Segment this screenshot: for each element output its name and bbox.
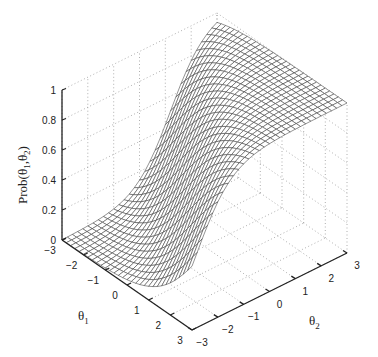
theta1-tick — [170, 313, 174, 315]
theta2-tick-label: −1 — [248, 311, 260, 322]
theta1-tick-label: 3 — [177, 335, 183, 346]
theta2-tick-label: 0 — [277, 299, 283, 310]
theta1-tick-label: −3 — [44, 245, 56, 256]
x-axis-label: θ1 — [78, 308, 89, 326]
theta1-tick — [149, 298, 153, 300]
theta1-tick-label: −1 — [88, 275, 100, 286]
theta1-tick-label: 1 — [134, 305, 140, 316]
y-axis-label: θ2 — [309, 313, 320, 331]
z-tick-label: 0 — [50, 235, 56, 246]
theta1-tick — [127, 283, 131, 285]
z-tick-label: 1 — [50, 85, 56, 96]
theta2-tick-label: −2 — [222, 324, 234, 335]
theta2-tick — [317, 263, 321, 266]
surface-chart: 00.20.40.60.81−3−2−10123−3−2−10123 Prob(… — [0, 0, 378, 357]
theta1-tick-label: 2 — [156, 320, 162, 331]
theta2-tick — [291, 276, 295, 279]
theta2-tick — [343, 251, 347, 254]
z-axis-label: Prob(θ1,θ2) — [15, 146, 32, 204]
z-tick-label: 0.8 — [42, 115, 56, 126]
z-tick-label: 0.4 — [42, 175, 56, 186]
theta2-tick — [266, 289, 270, 292]
z-tick — [62, 89, 66, 91]
surface-mesh — [62, 22, 347, 286]
theta2-tick — [240, 302, 244, 305]
theta2-tick — [214, 315, 218, 318]
theta1-tick-label: −2 — [66, 260, 78, 271]
theta1-tick-label: 0 — [112, 290, 118, 301]
z-tick-label: 0.2 — [42, 205, 56, 216]
theta2-tick-label: 1 — [303, 286, 309, 297]
theta2-tick-label: −3 — [196, 337, 208, 348]
theta2-tick-label: 3 — [354, 260, 360, 271]
theta2-tick-label: 2 — [328, 273, 334, 284]
z-tick-label: 0.6 — [42, 145, 56, 156]
